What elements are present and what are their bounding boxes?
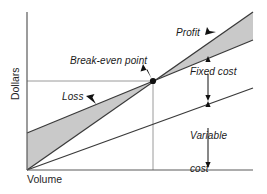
break-even-leader-arrow bbox=[141, 64, 152, 79]
variable-cost-label: Variable cost bbox=[190, 108, 227, 194]
profit-label: Profit bbox=[176, 27, 200, 38]
loss-leader-arrow bbox=[86, 94, 96, 104]
variable-cost-label-line1: Variable bbox=[190, 130, 227, 141]
x-axis-label: Volume bbox=[27, 174, 62, 186]
profit-leader-arrow bbox=[205, 27, 216, 35]
loss-label: Loss bbox=[62, 91, 84, 102]
break-even-chart: Dollars Volume Break-even point Profit L… bbox=[0, 0, 267, 194]
y-axis-label: Dollars bbox=[10, 54, 22, 114]
fixed-cost-arrow bbox=[205, 56, 210, 101]
fixed-cost-label: Fixed cost bbox=[190, 66, 237, 77]
break-even-point-label: Break-even point bbox=[70, 55, 147, 66]
break-even-point-marker bbox=[150, 78, 156, 84]
variable-cost-label-line2: cost bbox=[190, 163, 227, 174]
